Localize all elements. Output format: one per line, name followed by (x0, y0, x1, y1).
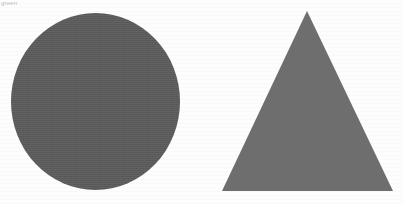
image-canvas: green (0, 0, 403, 204)
circle-shape (11, 13, 180, 190)
caption-text: green (1, 0, 17, 7)
circle-grain-texture (11, 13, 180, 190)
triangle-polygon (222, 11, 393, 191)
